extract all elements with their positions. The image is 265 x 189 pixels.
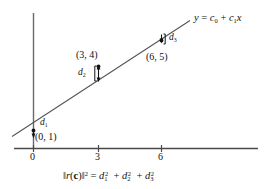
residual-d2-sub: 2	[83, 72, 86, 78]
equation-c1: c	[229, 12, 234, 23]
residual-label-d2: d2	[78, 68, 86, 78]
x-tick-label-6: 6	[158, 152, 163, 162]
equation-plus: +	[218, 12, 229, 23]
caption-d1-sup: 2	[105, 170, 108, 177]
caption-plus-2: +	[134, 170, 145, 181]
caption-plus-1: +	[111, 170, 122, 181]
x-tick-label-3: 3	[95, 152, 100, 162]
caption-d2-term: d22	[122, 171, 134, 182]
residual-label-d3: d3	[169, 33, 177, 43]
residual-label-d1: d1	[40, 118, 48, 128]
fit-line	[12, 21, 190, 137]
caption-d3-term: d32	[145, 171, 157, 182]
point-label-6-5: (6, 5)	[146, 52, 168, 62]
equation-c0-sub: 0	[215, 17, 218, 24]
caption-d1-term: d12	[99, 171, 111, 182]
least-squares-figure: y = c0 + c1x (3, 4) (6, 5) (0, 1) d1 d2 …	[0, 0, 265, 189]
point-label-3-4: (3, 4)	[76, 50, 98, 60]
caption-equals: =	[88, 170, 99, 181]
x-tick-label-0: 0	[30, 152, 35, 162]
equation-c0: c	[210, 12, 215, 23]
residual-marker-d3	[160, 34, 166, 44]
residual-d3-sub: 3	[174, 37, 177, 43]
fit-line-equation-label: y = c0 + c1x	[194, 13, 242, 24]
equation-equals: =	[199, 12, 210, 23]
caption-d2-sup: 2	[128, 170, 131, 177]
point-label-0-1: (0, 1)	[35, 132, 57, 142]
equation-c1-sub: 1	[234, 17, 237, 24]
residual-d1-sub: 1	[45, 122, 48, 128]
caption-formula: ‖r(c)‖2 = d12 + d22 + d32	[63, 171, 157, 182]
caption-sup-2: 2	[85, 170, 88, 177]
caption-d3-sup: 2	[151, 170, 154, 177]
plot-canvas	[0, 0, 265, 189]
equation-x: x	[237, 12, 242, 23]
